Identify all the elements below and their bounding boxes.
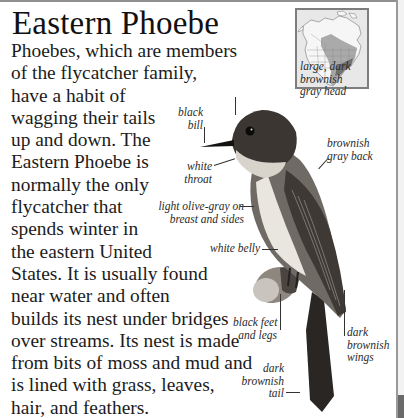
leader-line-feet: [280, 294, 281, 330]
label-breast: light olive-gray on breast and sides: [148, 200, 244, 225]
label-bill: black bill: [175, 106, 203, 131]
leader-line-breast: [240, 206, 254, 207]
leader-line-bill: [204, 127, 205, 143]
label-belly: white belly: [210, 242, 260, 255]
label-wings: dark brownish wings: [347, 326, 389, 364]
label-head: large, dark brownish gray head: [300, 60, 351, 98]
leader-line-tail: [286, 392, 300, 393]
label-tail: dark brownish tail: [240, 362, 284, 400]
leader-line-head: [235, 97, 236, 115]
leader-line-belly: [262, 249, 278, 250]
leader-line-wings: [344, 290, 345, 336]
label-back: brownish gray back: [327, 137, 373, 162]
label-feet: black feet and legs: [233, 316, 277, 341]
label-throat: white throat: [178, 160, 212, 185]
